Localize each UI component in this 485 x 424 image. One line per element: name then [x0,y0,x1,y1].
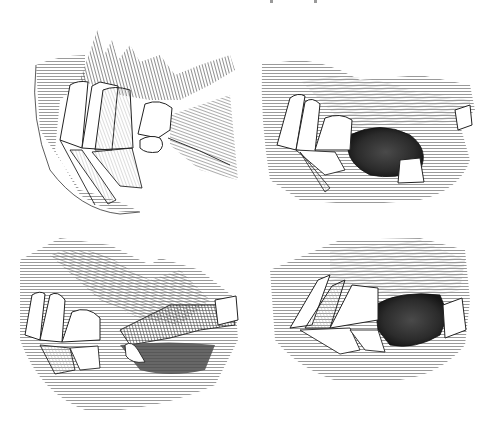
panel-top-right [262,60,475,205]
panel-bottom-right [270,238,470,382]
horse-teeth-engraving [0,0,485,424]
panel-bottom-left [20,238,238,412]
panel-top-left [35,28,238,214]
